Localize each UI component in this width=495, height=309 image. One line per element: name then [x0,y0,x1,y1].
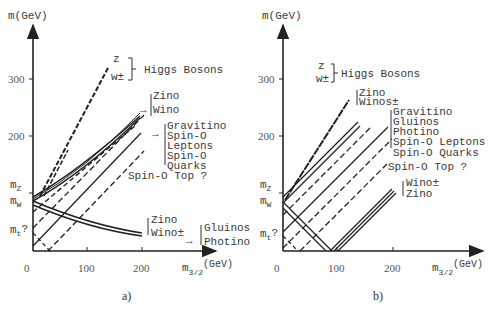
panel-b-caption: b) [373,289,383,303]
x-tick-0: 0 [24,262,30,274]
photino-label: Photino [204,236,250,248]
higgs-w-label: w± [316,73,329,85]
y-tick-200: 200 [8,130,25,142]
x-tick-0: 0 [274,262,280,274]
mt-label: mt? [10,223,28,238]
higgs-z-label: z [113,53,120,65]
zino-label-lower: Zino [406,188,432,200]
y-axis-label: m(GeV) [8,10,48,22]
gluinos-label: Gluinos [204,222,250,234]
higgs-z-label: z [318,60,325,72]
y-axis-label: m(GeV) [262,10,302,22]
x-axis-label: m3/2(GeV) [182,259,233,277]
svg-text:→: → [152,128,159,140]
x-tick-200: 200 [133,262,150,274]
higgs-label: Higgs Bosons [341,68,420,80]
x-tick-200: 200 [384,262,401,274]
wino-lower-label: Wino± [151,227,184,239]
svg-text:→: → [186,235,193,247]
mw-label: mW [10,195,22,209]
zino-upper-label: Zino [153,90,179,102]
y-tick-300: 300 [8,73,25,85]
panel-a: m(GeV) 300 200 0 100 200 m3/2(GeV) mZ mW… [8,10,250,303]
y-tick-300: 300 [258,73,275,85]
mt-label: mt? [260,227,278,242]
higgs-w-label: w± [111,71,124,83]
spin0-quarks-label: Spin-O Quarks [393,147,479,159]
higgs-label: Higgs Bosons [144,64,223,76]
y-tick-200: 200 [258,130,275,142]
mz-label: mZ [10,179,22,193]
figure-canvas: m(GeV) 300 200 0 100 200 m3/2(GeV) mZ mW… [0,0,495,309]
wino-upper-label: Wino [153,104,179,116]
x-axis-label: m3/2(GeV) [432,259,483,277]
panel-b: m(GeV) 300 200 0 100 200 m3/2(GeV) mZ mW… [258,10,485,303]
mw-label: mW [260,195,272,209]
top-label: Spin-O Top ? [128,170,207,182]
top-label: Spin-O Top ? [388,161,467,173]
panel-a-caption: a) [122,289,131,303]
zino-lower-label: Zino [151,214,177,226]
svg-text:→: → [140,104,147,116]
mz-label: mZ [260,179,272,193]
higgs-line [40,68,108,196]
x-tick-100: 100 [328,262,345,274]
x-tick-100: 100 [78,262,95,274]
